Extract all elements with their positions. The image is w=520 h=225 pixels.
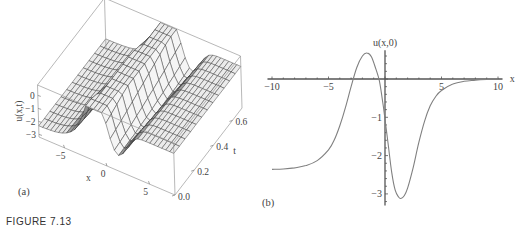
x-tick-label: −10 — [264, 81, 280, 92]
z-tick-label: −1 — [25, 104, 35, 114]
line-plot-2d: −10−5510−1−2−3xu(x,0) — [264, 37, 514, 205]
t-tick-label: 0.0 — [178, 192, 190, 202]
z-tick-label: −3 — [26, 130, 36, 140]
x-axis-label: x — [86, 173, 91, 183]
y-tick-label: −2 — [371, 150, 382, 161]
x-tick-label: 0 — [101, 169, 106, 179]
z-tick-label: 0 — [30, 91, 35, 101]
surface-plot-3d: 0−1−2−3u(x,t)−505x0.00.20.40.6t — [14, 0, 247, 202]
y-axis-label: u(x,0) — [373, 37, 397, 49]
panel-b-label: (b) — [262, 197, 274, 208]
t-tick-label: 0.2 — [197, 167, 209, 177]
y-tick-label: −3 — [371, 188, 382, 199]
figure-canvas: 0−1−2−3u(x,t)−505x0.00.20.40.6t −10−5510… — [0, 0, 520, 225]
x-tick-label: −5 — [323, 81, 334, 92]
surface-mesh — [39, 23, 241, 156]
x-tick-label: 5 — [143, 187, 148, 197]
t-tick-label: 0.4 — [216, 142, 228, 152]
panel-a-label: (a) — [18, 186, 30, 197]
x-axis-label: x — [510, 73, 515, 84]
t-tick-label: 0.6 — [235, 117, 247, 127]
z-axis-label: u(x,t) — [14, 101, 25, 122]
axes-2d: −10−5510−1−2−3xu(x,0) — [264, 37, 514, 205]
t-axis-label: t — [233, 146, 236, 156]
z-tick-label: −2 — [25, 117, 35, 127]
x-tick-label: −5 — [55, 151, 65, 161]
x-tick-label: 10 — [493, 81, 503, 92]
figure-caption: FIGURE 7.13 — [6, 216, 72, 225]
y-tick-label: −1 — [371, 112, 382, 123]
